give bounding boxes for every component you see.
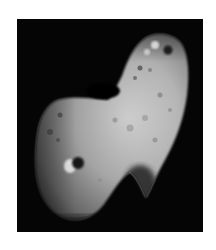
asteroid-photo	[17, 19, 203, 232]
asteroid-body	[17, 19, 203, 232]
asteroid-illustration	[17, 19, 203, 232]
